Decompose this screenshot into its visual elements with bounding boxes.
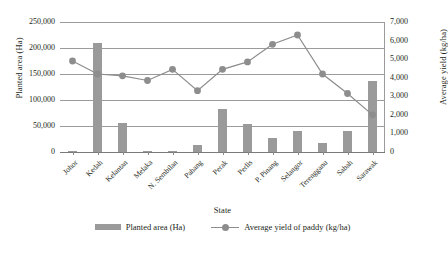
plot-area <box>60 22 385 152</box>
legend-item-planted-area: Planted area (Ha) <box>95 222 185 232</box>
line-marker <box>169 66 176 73</box>
y-tick-label-left: 50,000 <box>3 122 55 130</box>
x-tickmark <box>173 152 174 155</box>
line-marker <box>344 90 351 97</box>
x-tickmark <box>98 152 99 155</box>
y-tick-label-left: 150,000 <box>3 70 55 78</box>
x-tickmark <box>198 152 199 155</box>
y-tick-label-right: 3,000 <box>390 92 440 100</box>
line-marker <box>244 59 251 66</box>
x-tickmark <box>348 152 349 155</box>
line-marker <box>119 72 126 79</box>
y-tick-label-right: 5,000 <box>390 55 440 63</box>
x-tickmark <box>373 152 374 155</box>
legend-label-planted-area: Planted area (Ha) <box>126 222 185 232</box>
y-tick-label-left: 100,000 <box>3 96 55 104</box>
x-tickmark <box>248 152 249 155</box>
y-tick-label-right: 2,000 <box>390 111 440 119</box>
line-marker <box>194 87 201 94</box>
y-tick-label-right: 7,000 <box>390 18 440 26</box>
chart-legend: Planted area (Ha) Average yield of paddy… <box>0 222 445 232</box>
line-marker <box>69 58 76 65</box>
y-tick-label-right: 6,000 <box>390 37 440 45</box>
y-tick-label-right: 4,000 <box>390 74 440 82</box>
x-tickmark <box>148 152 149 155</box>
y-tick-label-left: 0 <box>3 148 55 156</box>
x-tickmark <box>323 152 324 155</box>
y-tick-label-left: 200,000 <box>3 44 55 52</box>
x-tickmark <box>298 152 299 155</box>
bar-swatch-icon <box>95 224 121 230</box>
legend-item-average-yield: Average yield of paddy (kg/ha) <box>211 222 350 232</box>
line-marker <box>319 71 326 78</box>
x-tickmark <box>73 152 74 155</box>
line-marker <box>144 77 151 84</box>
y-tick-label-right: 1,000 <box>390 129 440 137</box>
x-tickmark <box>223 152 224 155</box>
line-marker <box>294 32 301 39</box>
line-marker <box>269 41 276 48</box>
y-tick-label-right: 0 <box>390 148 440 156</box>
line-series <box>60 22 385 152</box>
line-marker <box>369 111 376 118</box>
line-marker <box>94 71 101 78</box>
x-tickmark <box>273 152 274 155</box>
x-tickmark <box>123 152 124 155</box>
legend-label-average-yield: Average yield of paddy (kg/ha) <box>244 222 350 232</box>
line-marker <box>219 66 226 73</box>
line-marker-swatch-icon <box>211 223 239 231</box>
y-tick-label-left: 250,000 <box>3 18 55 26</box>
